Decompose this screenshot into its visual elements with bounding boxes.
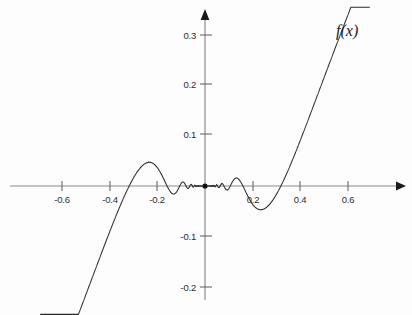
x-tick-label-neg02: -0.2 [149, 194, 165, 205]
x-tick-label-pos06: 0.6 [342, 194, 355, 205]
y-axis-ticks [200, 35, 212, 287]
x-tick-label-neg04: -0.4 [102, 194, 118, 205]
y-tick-label-neg02: -0.2 [166, 282, 196, 293]
y-tick-label-01: 0.1 [170, 129, 196, 140]
origin-dot [202, 183, 207, 188]
y-tick-label-02: 0.2 [170, 79, 196, 90]
plot-canvas [0, 0, 412, 315]
up-arrow-icon [201, 9, 210, 20]
figure-plot-fx: -0.6 -0.4 -0.2 0.2 0.4 0.6 0.3 0.2 0.1 -… [0, 0, 412, 315]
x-tick-label-neg06: -0.6 [54, 194, 70, 205]
curve-label-fx: f(x) [336, 22, 358, 40]
x-tick-label-pos02: 0.2 [247, 194, 260, 205]
x-tick-label-pos04: 0.4 [294, 194, 307, 205]
y-tick-label-03: 0.3 [170, 30, 196, 41]
right-arrow-icon [396, 182, 406, 191]
y-tick-label-neg01: -0.1 [166, 231, 196, 242]
